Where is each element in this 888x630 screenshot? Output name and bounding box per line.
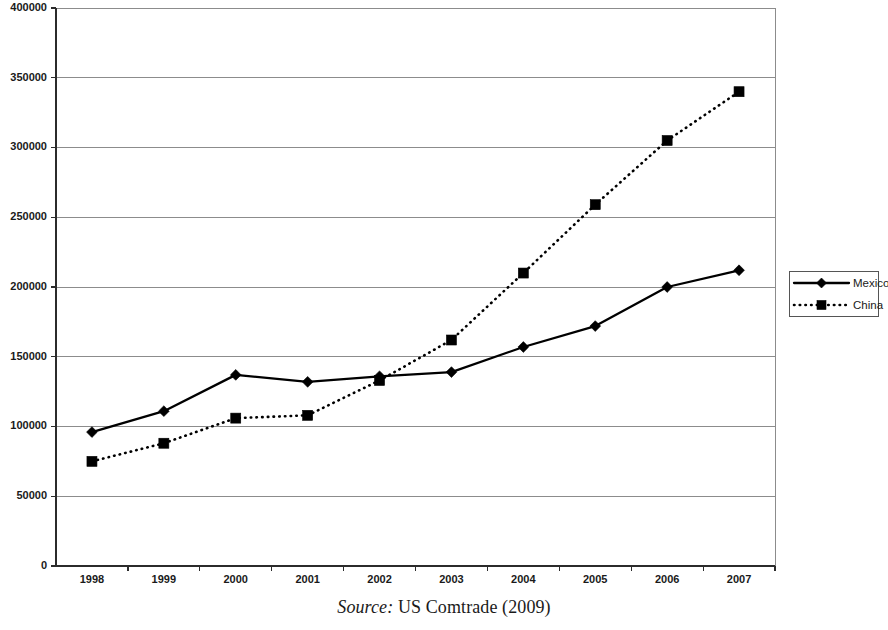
- y-tick-label: 400000: [10, 1, 47, 13]
- y-tick-label: 200000: [10, 280, 47, 292]
- y-tick-label: 150000: [10, 350, 47, 362]
- caption-source-text: US Comtrade (2009): [398, 597, 551, 617]
- x-tick-label: 2005: [583, 573, 607, 585]
- data-point-china-2005: [590, 200, 600, 210]
- data-point-china-2003: [446, 335, 456, 345]
- x-tick-label: 2006: [655, 573, 679, 585]
- y-tick-label: 300000: [10, 140, 47, 152]
- x-tick-label: 2000: [224, 573, 248, 585]
- legend-label-china: China: [853, 299, 884, 311]
- x-tick-label: 2001: [295, 573, 319, 585]
- x-tick-label: 2003: [439, 573, 463, 585]
- y-tick-label: 350000: [10, 71, 47, 83]
- legend-label-mexico: Mexico: [853, 277, 888, 289]
- legend-marker-china: [817, 301, 826, 310]
- chart-legend: MexicoChina: [789, 271, 888, 316]
- data-point-china-2000: [231, 413, 241, 423]
- x-tick-label: 1998: [80, 573, 104, 585]
- y-tick-label: 0: [41, 559, 47, 571]
- y-axis-ticks: 0500001000001500002000002500003000003500…: [10, 1, 56, 571]
- y-tick-label: 50000: [16, 489, 47, 501]
- caption-source-label: Source:: [337, 597, 393, 617]
- figure-caption: Source: US Comtrade (2009): [0, 597, 888, 618]
- data-point-china-2006: [662, 136, 672, 146]
- x-tick-label: 2002: [367, 573, 391, 585]
- x-tick-label: 1999: [152, 573, 176, 585]
- data-point-china-2002: [375, 375, 385, 385]
- chart-figure: 0500001000001500002000002500003000003500…: [0, 0, 888, 630]
- data-point-china-2001: [303, 410, 313, 420]
- x-tick-label: 2007: [727, 573, 751, 585]
- data-point-china-1998: [87, 456, 97, 466]
- line-chart: 0500001000001500002000002500003000003500…: [0, 0, 888, 600]
- data-point-china-2007: [734, 87, 744, 97]
- y-tick-label: 250000: [10, 210, 47, 222]
- x-axis-ticks: 1998199920002001200220032004200520062007: [80, 566, 775, 585]
- data-point-china-1999: [159, 438, 169, 448]
- x-tick-label: 2004: [511, 573, 536, 585]
- data-point-china-2004: [518, 268, 528, 278]
- y-tick-label: 100000: [10, 419, 47, 431]
